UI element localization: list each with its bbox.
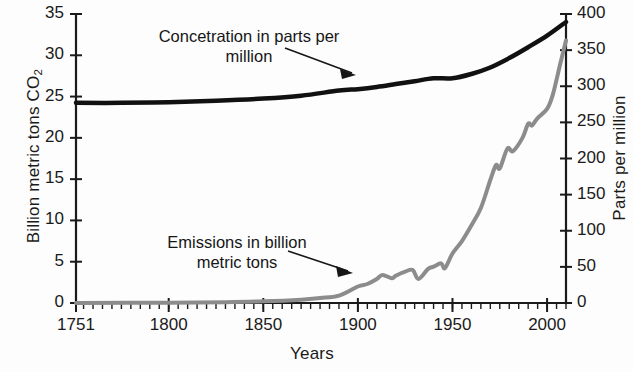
left-tick-label-10: 10 [30,209,64,229]
right-tick-label-150: 150 [577,184,617,204]
x-tick-label-1800: 1800 [134,315,204,335]
emissions-annotation-label: Emissions in billion metric tons [148,232,326,272]
right-tick-label-50: 50 [577,256,617,276]
chart-figure: Billion metric tons CO2 Parts per millio… [0,0,633,372]
x-tick-label-2000: 2000 [512,315,582,335]
x-tick-label-1850: 1850 [228,315,298,335]
left-axis-title: Billion metric tons CO2 [24,26,44,286]
right-tick-label-350: 350 [577,39,617,59]
left-tick-label-35: 35 [30,3,64,23]
left-tick-label-20: 20 [30,127,64,147]
left-axis-title-subscript: 2 [32,69,44,76]
right-tick-label-300: 300 [577,75,617,95]
x-tick-label-1900: 1900 [323,315,393,335]
left-tick-label-0: 0 [30,292,64,312]
left-tick-label-30: 30 [30,44,64,64]
right-tick-label-0: 0 [577,292,617,312]
right-tick-label-250: 250 [577,111,617,131]
left-tick-label-5: 5 [30,251,64,271]
left-tick-label-25: 25 [30,86,64,106]
right-tick-label-100: 100 [577,220,617,240]
x-tick-label-1950: 1950 [417,315,487,335]
x-axis-title: Years [222,344,402,364]
right-tick-label-200: 200 [577,148,617,168]
concentration-annotation-label: Concetration in parts per million [132,26,366,66]
right-tick-label-400: 400 [577,3,617,23]
x-tick-label-1751: 1751 [41,315,111,335]
left-tick-label-15: 15 [30,168,64,188]
